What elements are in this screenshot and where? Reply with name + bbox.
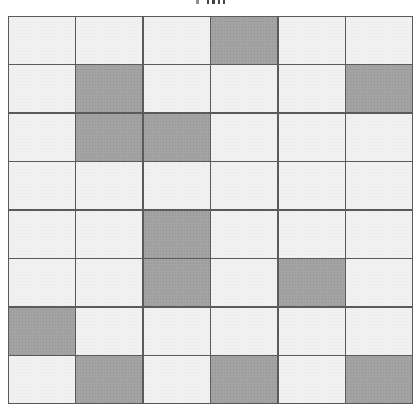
grid-cell-filled <box>144 259 210 306</box>
grid-cell-empty <box>279 162 345 209</box>
grid-cell-empty <box>211 259 277 306</box>
grid-cell-empty <box>76 162 142 209</box>
grid-cell-empty <box>9 211 75 258</box>
grid-cell-empty <box>144 162 210 209</box>
grid-cell-filled <box>76 65 142 112</box>
grid-cell-empty <box>9 356 75 403</box>
grid-cell-empty <box>346 162 412 209</box>
grid-cell-empty <box>76 308 142 355</box>
grid-cell-empty <box>144 356 210 403</box>
caption-fragment-marks <box>196 0 230 4</box>
grid-cell-filled <box>144 114 210 161</box>
grid-cell-filled <box>9 308 75 355</box>
grid-cell-empty <box>279 114 345 161</box>
grid-cell-filled <box>76 114 142 161</box>
cell-grid <box>8 16 413 404</box>
grid-cell-empty <box>211 65 277 112</box>
grid-cell-filled <box>144 211 210 258</box>
grid-cell-empty <box>9 65 75 112</box>
grid-cell-empty <box>279 17 345 64</box>
grid-cell-empty <box>346 114 412 161</box>
clipped-caption <box>0 0 416 6</box>
grid-cell-empty <box>346 211 412 258</box>
grid-cell-empty <box>279 65 345 112</box>
grid-cell-empty <box>211 162 277 209</box>
grid-cell-filled <box>76 356 142 403</box>
grid-cell-empty <box>76 259 142 306</box>
grid-cell-empty <box>144 17 210 64</box>
grid-cell-empty <box>279 211 345 258</box>
grid-cell-empty <box>279 356 345 403</box>
grid-cell-empty <box>211 114 277 161</box>
grid-cell-empty <box>9 162 75 209</box>
grid-cell-filled <box>346 356 412 403</box>
grid-cell-empty <box>9 17 75 64</box>
grid-cell-empty <box>211 308 277 355</box>
grid-cell-empty <box>76 211 142 258</box>
grid-cell-empty <box>9 114 75 161</box>
grid-cell-empty <box>346 308 412 355</box>
grid-cell-empty <box>76 17 142 64</box>
grid-cell-empty <box>346 259 412 306</box>
grid-cell-filled <box>211 356 277 403</box>
grid-cell-filled <box>279 259 345 306</box>
grid-cell-empty <box>144 65 210 112</box>
grid-cell-empty <box>346 17 412 64</box>
grid-cell-empty <box>279 308 345 355</box>
grid-cell-empty <box>211 211 277 258</box>
grid-cell-empty <box>9 259 75 306</box>
grid-cell-empty <box>144 308 210 355</box>
grid-cell-filled <box>346 65 412 112</box>
grid-cell-filled <box>211 17 277 64</box>
